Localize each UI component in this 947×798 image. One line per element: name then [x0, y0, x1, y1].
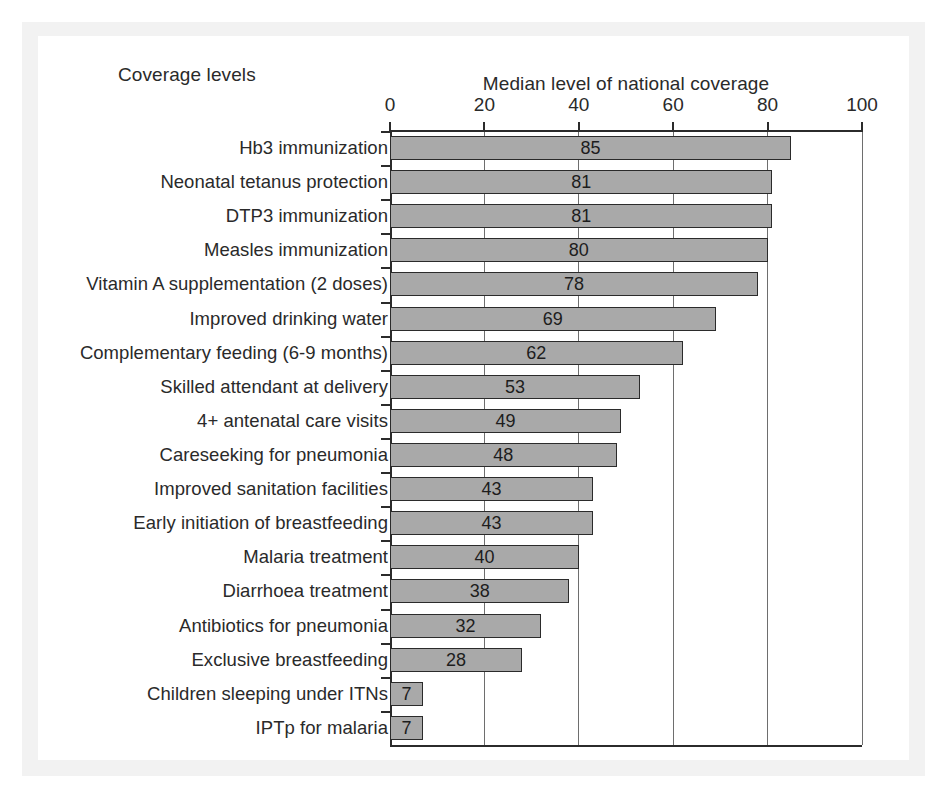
- bar-row: Malaria treatment40: [390, 540, 862, 574]
- coverage-levels-header: Coverage levels: [118, 64, 256, 86]
- bar: [390, 272, 758, 296]
- category-label: Improved drinking water: [189, 307, 388, 331]
- bar-row: Antibiotics for pneumonia32: [390, 609, 862, 643]
- bar-row: IPTp for malaria7: [390, 711, 862, 745]
- bar: [390, 307, 716, 331]
- bar: [390, 716, 423, 740]
- bar-row: Careseeking for pneumonia48: [390, 438, 862, 472]
- bar: [390, 579, 569, 603]
- bar-row: Hb3 immunization85: [390, 131, 862, 165]
- x-tick-label: 100: [846, 94, 878, 116]
- category-label: Neonatal tetanus protection: [160, 170, 388, 194]
- x-tick-label: 20: [474, 94, 495, 116]
- x-axis-title: Median level of national coverage: [390, 73, 862, 95]
- bar: [390, 511, 593, 535]
- bar-row: Complementary feeding (6-9 months)62: [390, 336, 862, 370]
- x-tick-label: 80: [757, 94, 778, 116]
- bar-row: DTP3 immunization81: [390, 199, 862, 233]
- y-tick-mark: [381, 131, 390, 133]
- y-tick-mark: [381, 574, 390, 576]
- y-tick-mark: [381, 506, 390, 508]
- bar: [390, 545, 579, 569]
- bar: [390, 238, 768, 262]
- y-tick-mark: [381, 609, 390, 611]
- bar: [390, 682, 423, 706]
- bar: [390, 375, 640, 399]
- y-tick-mark: [381, 302, 390, 304]
- bar-row: Vitamin A supplementation (2 doses)78: [390, 267, 862, 301]
- bar-row: Early initiation of breastfeeding43: [390, 506, 862, 540]
- y-tick-mark: [381, 404, 390, 406]
- category-label: Careseeking for pneumonia: [159, 443, 388, 467]
- y-tick-mark: [381, 267, 390, 269]
- y-tick-mark: [381, 199, 390, 201]
- y-tick-mark: [381, 677, 390, 679]
- bar: [390, 136, 791, 160]
- bar-row: Children sleeping under ITNs7: [390, 677, 862, 711]
- bar: [390, 409, 621, 433]
- category-label: Exclusive breastfeeding: [191, 648, 388, 672]
- bar: [390, 341, 683, 365]
- category-label: Early initiation of breastfeeding: [133, 511, 388, 535]
- bar-row: Measles immunization80: [390, 233, 862, 267]
- y-tick-mark: [381, 643, 390, 645]
- bar: [390, 170, 772, 194]
- bar: [390, 648, 522, 672]
- bar-row: Neonatal tetanus protection81: [390, 165, 862, 199]
- y-tick-mark: [381, 472, 390, 474]
- category-label: Vitamin A supplementation (2 doses): [86, 272, 388, 296]
- bar: [390, 443, 617, 467]
- y-tick-mark: [381, 540, 390, 542]
- category-label: Children sleeping under ITNs: [147, 682, 388, 706]
- figure-root: Coverage levels Median level of national…: [0, 0, 947, 798]
- y-tick-mark: [381, 165, 390, 167]
- category-label: Complementary feeding (6-9 months): [80, 341, 388, 365]
- bar-row: Improved drinking water69: [390, 302, 862, 336]
- y-tick-mark: [381, 336, 390, 338]
- y-tick-mark: [381, 438, 390, 440]
- bar: [390, 204, 772, 228]
- bar-row: Exclusive breastfeeding28: [390, 643, 862, 677]
- category-label: Hb3 immunization: [239, 136, 388, 160]
- bar: [390, 477, 593, 501]
- category-label: Antibiotics for pneumonia: [179, 614, 388, 638]
- plot-area: 020406080100 Hb3 immunization85Neonatal …: [390, 131, 862, 745]
- bar-row: Skilled attendant at delivery53: [390, 370, 862, 404]
- y-tick-mark: [381, 711, 390, 713]
- category-label: Improved sanitation facilities: [154, 477, 388, 501]
- x-tick-label: 0: [385, 94, 396, 116]
- x-tick-label: 40: [568, 94, 589, 116]
- bar-row: Improved sanitation facilities43: [390, 472, 862, 506]
- bar: [390, 614, 541, 638]
- x-axis-bottom-line: [390, 745, 862, 747]
- category-label: DTP3 immunization: [226, 204, 388, 228]
- category-label: IPTp for malaria: [256, 716, 388, 740]
- category-label: Diarrhoea treatment: [223, 579, 388, 603]
- bar-row: Diarrhoea treatment38: [390, 574, 862, 608]
- category-label: Skilled attendant at delivery: [160, 375, 388, 399]
- y-tick-mark: [381, 370, 390, 372]
- y-tick-mark: [381, 233, 390, 235]
- bar-row: 4+ antenatal care visits49: [390, 404, 862, 438]
- x-tick-label: 60: [663, 94, 684, 116]
- category-label: 4+ antenatal care visits: [197, 409, 388, 433]
- category-label: Malaria treatment: [243, 545, 388, 569]
- category-label: Measles immunization: [204, 238, 388, 262]
